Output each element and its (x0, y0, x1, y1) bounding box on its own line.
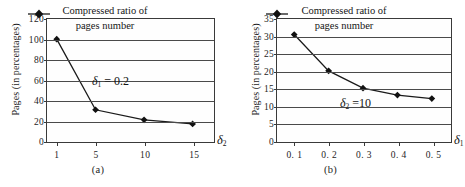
x-axis-symbol-a: δ2 (217, 133, 227, 148)
legend-label-line1-a: Compressed ratio of (44, 3, 166, 18)
gridline (47, 101, 214, 102)
x-tick-mark (434, 142, 435, 146)
gridline (277, 124, 451, 125)
legend-label-line2-b: pages number (282, 18, 406, 33)
y-tick-label: 30 (264, 32, 274, 42)
x-tick-label: 0. 1 (286, 150, 302, 160)
y-tick-label: 5 (269, 119, 274, 129)
y-tick-mark (274, 72, 277, 73)
plot-area-b: 051015202530350. 10. 20. 30. 40. 5 (276, 18, 452, 143)
y-tick-mark (274, 142, 277, 143)
legend-b: Compressed ratio of pages number (282, 3, 406, 33)
legend-label-line1-b: Compressed ratio of (282, 3, 406, 18)
y-tick-label: 20 (264, 67, 274, 77)
y-tick-label: 80 (34, 55, 44, 65)
x-tick-mark (96, 142, 97, 146)
y-tick-mark (274, 124, 277, 125)
y-tick-label: 15 (264, 84, 274, 94)
x-axis-symbol-b: δ1 (454, 133, 464, 148)
panel-caption-a: (a) (0, 164, 214, 175)
y-tick-mark (274, 54, 277, 55)
x-tick-label: 15 (189, 150, 199, 160)
x-tick-mark (329, 142, 330, 146)
gridline (277, 37, 451, 38)
y-tick-mark (274, 89, 277, 90)
gridline (277, 89, 451, 90)
data-point-marker (360, 85, 367, 92)
x-tick-mark (57, 142, 58, 146)
x-tick-label: 0. 2 (321, 150, 337, 160)
plot-area-a: 020406080100120151015 (46, 18, 215, 143)
annotation-value-a: = 0.2 (101, 74, 129, 88)
x-tick-label: 5 (94, 150, 99, 160)
annotation-delta1-a: δ1 = 0.2 (92, 74, 129, 89)
x-tick-label: 0. 5 (426, 150, 442, 160)
data-point-marker (394, 92, 401, 99)
y-tick-label: 20 (34, 117, 44, 127)
x-axis-symbol-sub-b: 1 (460, 139, 464, 148)
y-tick-label: 60 (34, 76, 44, 86)
y-tick-mark (44, 81, 47, 82)
y-tick-mark (44, 40, 47, 41)
figure-container: Pages (in percentages) 02040608010012015… (0, 0, 465, 187)
y-tick-mark (44, 122, 47, 123)
x-axis-symbol-sub-a: 2 (223, 139, 227, 148)
chart-panel-a: Pages (in percentages) 02040608010012015… (0, 0, 232, 187)
annotation-value-b: =10 (349, 96, 371, 110)
y-tick-label: 10 (264, 102, 274, 112)
annotation-delta2-b: δ2 =10 (340, 96, 371, 111)
x-tick-label: 1 (54, 150, 59, 160)
gridline (47, 60, 214, 61)
x-tick-mark (399, 142, 400, 146)
y-tick-mark (44, 60, 47, 61)
y-tick-label: 40 (34, 96, 44, 106)
x-tick-mark (294, 142, 295, 146)
y-tick-label: 25 (264, 49, 274, 59)
gridline (47, 40, 214, 41)
gridline (277, 72, 451, 73)
y-tick-label: 100 (29, 35, 44, 45)
x-tick-label: 10 (140, 150, 150, 160)
y-tick-label: 0 (269, 137, 274, 147)
x-tick-mark (364, 142, 365, 146)
data-point-marker (428, 95, 435, 102)
y-axis-label-b: Pages (in percentages) (250, 5, 261, 135)
y-axis-label-a: Pages (in percentages) (10, 5, 21, 135)
legend-a: Compressed ratio of pages number (44, 3, 166, 33)
legend-label-line2-a: pages number (44, 18, 166, 33)
x-tick-label: 0. 3 (356, 150, 372, 160)
gridline (277, 54, 451, 55)
panel-caption-b: (b) (214, 164, 447, 175)
gridline (47, 81, 214, 82)
data-point-marker (92, 106, 99, 113)
y-tick-label: 0 (39, 137, 44, 147)
x-tick-mark (145, 142, 146, 146)
y-tick-mark (44, 101, 47, 102)
y-tick-mark (274, 107, 277, 108)
x-tick-mark (194, 142, 195, 146)
y-tick-mark (274, 37, 277, 38)
chart-panel-b: Pages (in percentages) 051015202530350. … (232, 0, 465, 187)
gridline (47, 122, 214, 123)
y-tick-mark (44, 142, 47, 143)
x-tick-label: 0. 4 (391, 150, 407, 160)
